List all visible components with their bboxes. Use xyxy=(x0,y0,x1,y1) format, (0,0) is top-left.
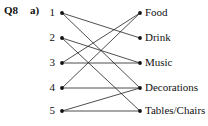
left-node-label-4: 4 xyxy=(43,82,55,93)
left-node-label-2: 2 xyxy=(43,32,55,43)
right-node-label-music: Music xyxy=(145,57,173,68)
diagram-canvas: Q8 a) 12345 FoodDrinkMusicDecorationsTab… xyxy=(0,0,208,126)
right-node-label-drink: Drink xyxy=(145,32,171,43)
graph-edge xyxy=(62,13,140,38)
graph-edge xyxy=(62,88,140,111)
right-node-label-food: Food xyxy=(145,7,168,18)
right-node-dot[interactable] xyxy=(138,36,142,40)
right-node-dot[interactable] xyxy=(138,61,142,65)
left-nodes-group xyxy=(60,11,64,113)
left-node-label-5: 5 xyxy=(43,105,55,116)
right-nodes-group xyxy=(138,11,142,113)
left-node-label-1: 1 xyxy=(43,7,55,18)
right-node-label-tables: Tables/Chairs xyxy=(145,105,205,116)
left-node-dot[interactable] xyxy=(60,36,64,40)
right-node-label-decorations: Decorations xyxy=(145,82,198,93)
left-node-dot[interactable] xyxy=(60,109,64,113)
right-node-dot[interactable] xyxy=(138,109,142,113)
right-node-dot[interactable] xyxy=(138,11,142,15)
left-node-dot[interactable] xyxy=(60,11,64,15)
left-node-label-3: 3 xyxy=(43,57,55,68)
graph-edge xyxy=(62,13,140,63)
graph-edge xyxy=(62,38,140,111)
left-node-dot[interactable] xyxy=(60,61,64,65)
right-node-dot[interactable] xyxy=(138,86,142,90)
left-node-dot[interactable] xyxy=(60,86,64,90)
edges-group xyxy=(62,13,140,111)
